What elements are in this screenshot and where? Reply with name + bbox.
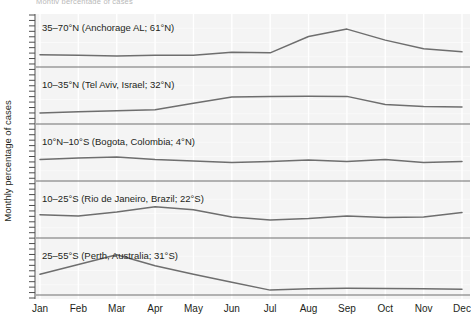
y-axis-ticks: [28, 14, 36, 299]
x-tick-jun: Jun: [224, 303, 240, 314]
y-axis-title: Monthly percentage of cases: [0, 0, 14, 322]
cropped-caption-remnant: Montly percentage of cases: [36, 0, 133, 4]
series-line: [40, 157, 462, 162]
x-tick-oct: Oct: [377, 303, 393, 314]
x-tick-nov: Nov: [415, 303, 433, 314]
x-tick-aug: Aug: [300, 303, 318, 314]
x-axis-labels: JanFebMarAprMayJunJulAugSepOctNovDec: [36, 303, 470, 319]
series-canvas: [36, 14, 470, 299]
x-tick-jan: Jan: [32, 303, 48, 314]
x-tick-dec: Dec: [453, 303, 471, 314]
plot-area: [36, 14, 470, 299]
x-tick-feb: Feb: [70, 303, 87, 314]
y-axis: [28, 14, 36, 299]
series-line: [40, 96, 462, 113]
x-tick-sep: Sep: [338, 303, 356, 314]
x-tick-apr: Apr: [147, 303, 163, 314]
x-tick-mar: Mar: [108, 303, 125, 314]
x-tick-jul: Jul: [264, 303, 277, 314]
x-tick-may: May: [184, 303, 203, 314]
